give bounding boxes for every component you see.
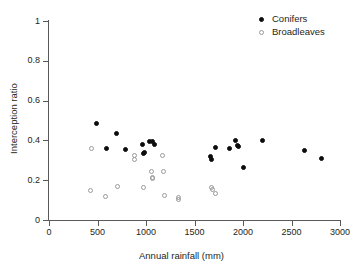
y-tick-label: 0.6 bbox=[0, 96, 40, 105]
y-tick-mark bbox=[43, 101, 48, 102]
data-point-broadleaf bbox=[161, 169, 166, 174]
data-point-broadleaf bbox=[149, 169, 154, 174]
x-tick-mark bbox=[146, 221, 147, 226]
legend-item-label: Broadleaves bbox=[272, 25, 325, 38]
y-tick-mark bbox=[43, 21, 48, 22]
data-point-broadleaf bbox=[132, 157, 137, 162]
x-tick-mark bbox=[98, 221, 99, 226]
x-tick-label: 1500 bbox=[173, 228, 217, 237]
data-point-conifer bbox=[227, 146, 232, 151]
data-point-conifer bbox=[104, 146, 109, 151]
data-point-broadleaf bbox=[162, 193, 167, 198]
legend-item[interactable]: Conifers bbox=[259, 12, 359, 25]
data-point-conifer bbox=[94, 121, 99, 126]
y-tick-mark bbox=[43, 140, 48, 141]
data-point-conifer bbox=[302, 148, 307, 153]
y-tick-label: 0.2 bbox=[0, 176, 40, 185]
x-tick-label: 2500 bbox=[270, 228, 314, 237]
data-point-conifer bbox=[123, 147, 128, 152]
x-tick-mark bbox=[292, 221, 293, 226]
data-point-conifer bbox=[319, 156, 324, 161]
y-tick-label: 1 bbox=[0, 17, 40, 26]
data-point-conifer bbox=[140, 142, 145, 147]
data-point-conifer bbox=[241, 165, 246, 170]
data-point-broadleaf bbox=[141, 185, 146, 190]
data-point-conifer bbox=[260, 138, 265, 143]
open-circle-icon bbox=[259, 30, 264, 35]
plot-area bbox=[49, 21, 340, 220]
y-tick-mark bbox=[43, 180, 48, 181]
data-point-broadleaf bbox=[213, 191, 218, 196]
x-tick-label: 1000 bbox=[124, 228, 168, 237]
x-tick-mark bbox=[195, 221, 196, 226]
data-point-broadleaf bbox=[115, 184, 120, 189]
x-tick-mark bbox=[243, 221, 244, 226]
data-point-broadleaf bbox=[88, 188, 93, 193]
data-point-broadleaf bbox=[103, 194, 108, 199]
data-point-broadleaf bbox=[150, 176, 155, 181]
x-tick-label: 500 bbox=[76, 228, 120, 237]
x-tick-mark bbox=[340, 221, 341, 226]
y-tick-mark bbox=[43, 61, 48, 62]
y-axis-title: Interception ratio bbox=[8, 49, 19, 189]
y-tick-label: 0.8 bbox=[0, 56, 40, 65]
y-tick-label: 0 bbox=[0, 216, 40, 225]
data-point-broadleaf bbox=[176, 197, 181, 202]
scatter-chart-figure: 00.20.40.60.81 050010001500200025003000 … bbox=[0, 0, 363, 273]
x-tick-label: 2000 bbox=[221, 228, 265, 237]
data-point-broadleaf bbox=[160, 153, 165, 158]
data-point-conifer bbox=[114, 131, 119, 136]
x-tick-label: 0 bbox=[27, 228, 71, 237]
x-axis-title: Annual rainfall (mm) bbox=[0, 250, 363, 261]
x-tick-label: 3000 bbox=[318, 228, 362, 237]
data-point-conifer bbox=[152, 142, 157, 147]
y-tick-mark bbox=[43, 220, 48, 221]
x-tick-mark bbox=[49, 221, 50, 226]
data-point-conifer bbox=[142, 150, 147, 155]
data-point-conifer bbox=[233, 138, 238, 143]
legend: ConifersBroadleaves bbox=[259, 12, 359, 38]
filled-circle-icon bbox=[259, 17, 264, 22]
legend-item-label: Conifers bbox=[272, 12, 307, 25]
legend-item[interactable]: Broadleaves bbox=[259, 25, 359, 38]
data-point-broadleaf bbox=[89, 146, 94, 151]
data-point-conifer bbox=[209, 157, 214, 162]
y-tick-label: 0.4 bbox=[0, 136, 40, 145]
data-point-conifer bbox=[213, 145, 218, 150]
data-point-conifer bbox=[236, 144, 241, 149]
